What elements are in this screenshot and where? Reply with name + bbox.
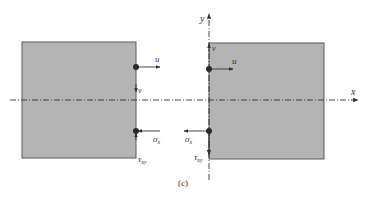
x-axis-label: x	[350, 86, 356, 97]
left-tau-label: τxy	[138, 154, 147, 165]
left-sigma-label: σx	[153, 134, 160, 145]
figure-caption: (c)	[178, 178, 188, 188]
left-bottom-node	[133, 128, 139, 134]
right-bottom-node	[206, 128, 212, 134]
right-v-label: v	[212, 44, 216, 53]
right-block	[209, 43, 324, 159]
right-top-node	[206, 66, 212, 72]
right-sigma-label: σx	[185, 134, 192, 145]
left-top-node	[133, 64, 139, 70]
left-v-label: v	[138, 86, 142, 95]
right-u-label: u	[232, 56, 237, 66]
right-tau-label: τxy	[194, 152, 203, 163]
left-u-label: u	[155, 54, 160, 64]
y-axis-label: y	[199, 13, 205, 24]
free-body-diagram: x y u v σx τxy v u σx τxy (c)	[0, 0, 370, 203]
